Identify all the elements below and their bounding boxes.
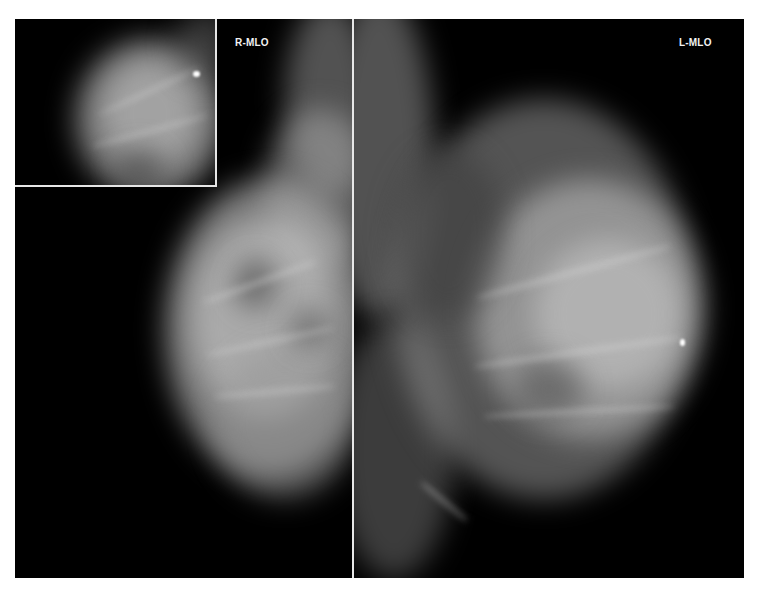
calcification-marker (680, 339, 685, 346)
l-mlo-panel: L-MLO (354, 19, 744, 578)
r-mlo-panel: R-MLO (15, 19, 352, 578)
calcification-marker (193, 71, 200, 77)
mammogram-figure: R-MLO L-MLO (15, 19, 744, 578)
r-mlo-label: R-MLO (235, 37, 269, 48)
l-mlo-label: L-MLO (679, 37, 712, 48)
magnified-inset (15, 19, 217, 187)
